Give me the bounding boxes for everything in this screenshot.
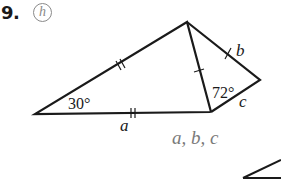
side-label-a: a [120,116,129,135]
side-label-c: c [239,92,247,111]
answer-variables: a, b, c [172,127,218,149]
angle-label-30: 30° [68,95,90,112]
left-triangle [35,22,211,114]
side-label-b: b [236,41,245,60]
angle-label-72: 72° [212,84,234,101]
partial-next-figure [243,160,281,178]
geometry-figure: 30° 72° a b c [0,0,281,192]
